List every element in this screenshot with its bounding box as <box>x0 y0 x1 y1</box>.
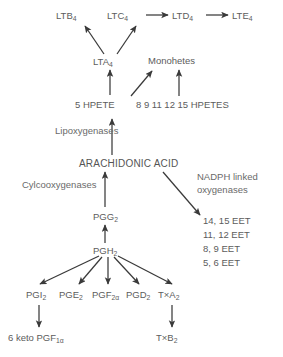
node-pgf2a: PGF2α <box>92 289 119 301</box>
arrow-lta4-to-ltc4 <box>117 26 136 54</box>
node-eet-5-6: 5, 6 EET <box>203 257 240 268</box>
node-pgd2: PGD2 <box>126 289 151 301</box>
node-txa2: T×A2 <box>158 289 180 301</box>
node-lipoxygenases: Lipoxygenases <box>55 125 119 136</box>
node-monohetes: Monohetes <box>148 55 195 66</box>
arrow-pgh2-to-pge2 <box>79 257 102 284</box>
node-pgh2: PGH2 <box>93 245 118 257</box>
label-group: LTB4 LTC4 LTD4 LTE4 LTA4 Monohetes 5 HPE… <box>8 10 258 344</box>
node-ltc4: LTC4 <box>107 10 128 22</box>
node-lte4: LTE4 <box>232 10 253 22</box>
arrow-lta4-to-ltb4 <box>85 26 104 54</box>
node-eet-8-9: 8, 9 EET <box>203 243 240 254</box>
node-ltd4: LTD4 <box>172 10 193 22</box>
node-cyclooxygenases: Cylcooxygenases <box>22 179 97 190</box>
node-pgi2: PGI2 <box>26 289 46 301</box>
node-hpete5: 5 HPETE <box>75 99 115 110</box>
node-keto-pgf1a: 6 keto PGF1α <box>8 332 64 344</box>
node-arachidonic-acid: ARACHIDONIC ACID <box>79 158 178 169</box>
arrow-hpete5-to-monohetes <box>131 71 152 96</box>
node-lta4: LTA4 <box>93 56 113 68</box>
node-pgg2: PGG2 <box>93 211 118 223</box>
pathway-diagram: LTB4 LTC4 LTD4 LTE4 LTA4 Monohetes 5 HPE… <box>0 0 283 357</box>
arrow-arachidonic-to-eet <box>163 172 200 215</box>
node-eet-14-15: 14, 15 EET <box>203 215 251 226</box>
node-pge2: PGE2 <box>59 289 83 301</box>
node-hpetes-list: 8 9 11 12 15 HPETES <box>136 99 229 110</box>
node-nadph-linked: NADPH linked <box>197 171 258 182</box>
node-nadph-oxygenases: oxygenases <box>197 184 248 195</box>
node-eet-11-12: 11, 12 EET <box>203 229 250 240</box>
node-txb2: T×B2 <box>156 332 178 344</box>
node-ltb4: LTB4 <box>56 10 77 22</box>
